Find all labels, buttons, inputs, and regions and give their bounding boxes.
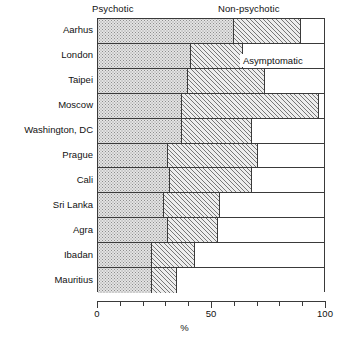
- category-axis-labels: AarhusLondonTaipeiMoscowWashington, DCPr…: [0, 18, 93, 292]
- x-axis-tick-label: 0: [94, 308, 99, 319]
- bar-segment-asymptomatic: [252, 168, 324, 192]
- bar-segment-non-psychotic: [182, 119, 252, 143]
- x-axis-tick: [302, 301, 303, 306]
- category-label: Sri Lanka: [53, 200, 93, 210]
- x-axis-tick: [325, 301, 326, 308]
- category-label: Ibadan: [64, 250, 93, 260]
- bar-row: [98, 119, 324, 144]
- bar-segment-asymptomatic: [220, 193, 324, 217]
- x-axis-tick: [257, 301, 258, 306]
- bar-segment-non-psychotic: [152, 243, 195, 267]
- x-axis-tick: [279, 301, 280, 306]
- bar-row: [98, 218, 324, 243]
- category-label: Washington, DC: [24, 125, 93, 135]
- bar-segment-non-psychotic: [168, 144, 258, 168]
- bar-segment-psychotic: [98, 19, 234, 43]
- bar-segment-non-psychotic: [191, 44, 243, 68]
- annotation-asymptomatic: Asymptomatic: [240, 54, 305, 67]
- bar-row: [98, 268, 324, 293]
- bar-segment-psychotic: [98, 168, 170, 192]
- bar-segment-psychotic: [98, 44, 191, 68]
- bar-row: [98, 69, 324, 94]
- x-axis-tick-label: 50: [206, 308, 217, 319]
- legend-label-psychotic: Psychotic: [92, 3, 134, 14]
- category-label: Taipei: [68, 75, 93, 85]
- x-axis-tick: [165, 301, 166, 306]
- category-label: Mauritius: [54, 275, 93, 285]
- bar-row: [98, 243, 324, 268]
- bar-segment-psychotic: [98, 69, 188, 93]
- bar-segment-psychotic: [98, 268, 152, 293]
- stacked-bar-chart: Psychotic Non-psychotic AarhusLondonTaip…: [0, 0, 341, 340]
- category-label: Prague: [62, 150, 93, 160]
- bar-segment-asymptomatic: [218, 218, 324, 242]
- bar-segment-asymptomatic: [252, 119, 324, 143]
- bar-segment-asymptomatic: [177, 268, 324, 293]
- bar-row: [98, 168, 324, 193]
- category-label: Agra: [73, 225, 93, 235]
- bar-row: [98, 144, 324, 169]
- bar-segment-psychotic: [98, 119, 182, 143]
- x-axis-tick: [143, 301, 144, 306]
- category-label: Moscow: [58, 100, 93, 110]
- bar-segment-non-psychotic: [170, 168, 251, 192]
- category-label: Aarhus: [63, 25, 93, 35]
- bar-segment-non-psychotic: [152, 268, 177, 293]
- bar-segment-psychotic: [98, 243, 152, 267]
- bar-segment-asymptomatic: [265, 69, 324, 93]
- bar-segment-asymptomatic: [258, 144, 324, 168]
- bar-segment-non-psychotic: [182, 94, 320, 118]
- x-axis-tick: [234, 301, 235, 306]
- category-label: London: [61, 50, 93, 60]
- bar-segment-psychotic: [98, 144, 168, 168]
- bar-segment-asymptomatic: [195, 243, 324, 267]
- x-axis-tick: [188, 301, 189, 306]
- bar-row: [98, 19, 324, 44]
- x-axis-title: %: [0, 322, 341, 333]
- x-axis-tick: [97, 301, 98, 308]
- bar-segment-non-psychotic: [188, 69, 265, 93]
- bar-row: [98, 94, 324, 119]
- bar-segment-psychotic: [98, 94, 182, 118]
- x-axis-tick: [120, 301, 121, 306]
- category-label: Cali: [77, 175, 93, 185]
- x-axis-tick: [211, 301, 212, 308]
- bar-segment-non-psychotic: [164, 193, 221, 217]
- bar-segment-non-psychotic: [234, 19, 302, 43]
- x-axis-title-text: %: [180, 322, 188, 333]
- bar-segment-psychotic: [98, 193, 164, 217]
- x-axis-tick-label: 100: [317, 308, 333, 319]
- legend-label-non-psychotic: Non-psychotic: [218, 3, 280, 14]
- bar-segment-psychotic: [98, 218, 168, 242]
- bar-segment-asymptomatic: [319, 94, 324, 118]
- bar-segment-non-psychotic: [168, 218, 218, 242]
- bar-segment-asymptomatic: [301, 19, 324, 43]
- bar-row: [98, 193, 324, 218]
